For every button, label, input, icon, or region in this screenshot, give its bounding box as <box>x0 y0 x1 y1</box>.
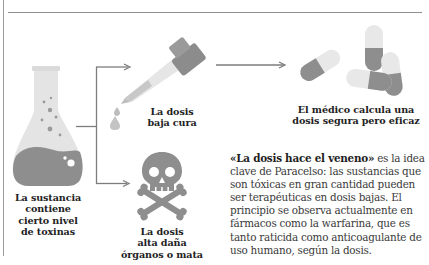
substance-label-line: cierto nivel <box>6 215 90 226</box>
low-dose-label-line: La dosis <box>138 106 206 117</box>
substance-label-line: contiene <box>6 203 90 214</box>
explanation-paragraph: «La dosis hace el veneno» es la idea cla… <box>230 152 426 257</box>
high-dose-label-line: órganos o mata <box>114 249 210 260</box>
paragraph-body: es la idea clave de Paracelso: las susta… <box>230 152 425 256</box>
top-rule-line <box>8 12 422 13</box>
substance-label-line: de toxinas <box>6 226 90 237</box>
low-dose-label: La dosis baja cura <box>138 106 206 129</box>
left-border-line <box>3 0 4 256</box>
doctor-label-line: dosis segura pero eficaz <box>292 115 420 126</box>
low-dose-label-line: baja cura <box>138 117 206 128</box>
substance-label: La sustancia contiene cierto nivel de to… <box>6 192 90 238</box>
paragraph-bold-quote: «La dosis hace el veneno» <box>230 152 374 164</box>
substance-label-line: La sustancia <box>6 192 90 203</box>
doctor-label-line: El médico calcula una <box>292 104 420 115</box>
high-dose-label-line: La dosis <box>114 226 210 237</box>
high-dose-label-line: alta daña <box>114 237 210 248</box>
pills-icon <box>290 20 400 102</box>
skull-crossbones-icon <box>136 150 188 220</box>
doctor-label: El médico calcula una dosis segura pero … <box>292 104 420 127</box>
high-dose-label: La dosis alta daña órganos o mata <box>114 226 210 260</box>
arrow-to-pills <box>214 60 288 70</box>
